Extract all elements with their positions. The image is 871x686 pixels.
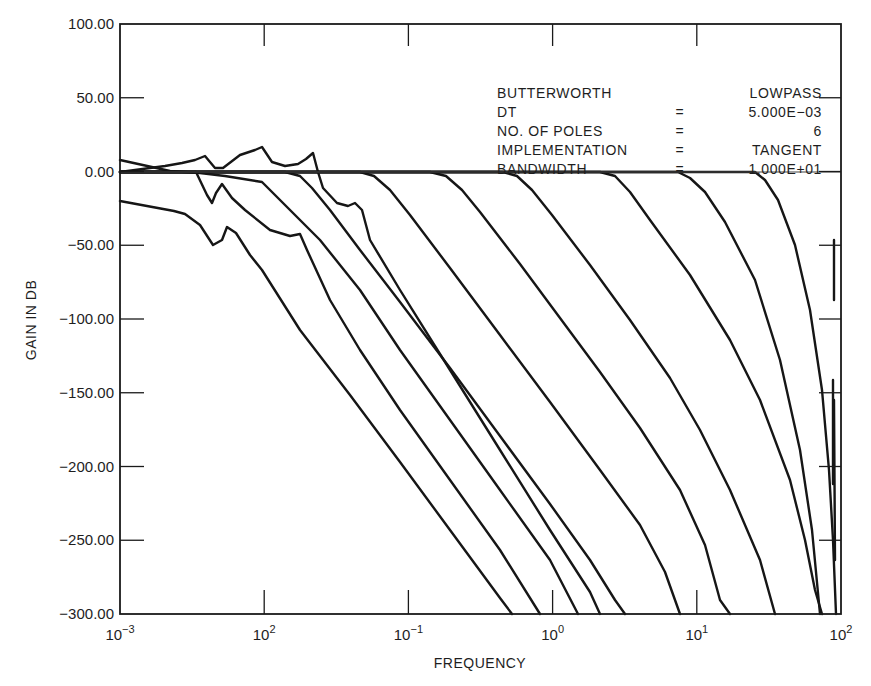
y-tick-label: 100.00 <box>68 15 114 32</box>
y-tick-label: −300.00 <box>59 605 114 622</box>
response-curve-4 <box>120 147 600 614</box>
annotation-eq-poles: = <box>676 123 685 139</box>
x-tick-label: 10−3 <box>105 623 134 643</box>
annotation-label-implementation: IMPLEMENTATION <box>497 142 628 158</box>
response-curve-6 <box>120 172 680 614</box>
response-curve-9 <box>120 172 822 614</box>
gain-frequency-chart: 100.0050.000.00−50.00−100.00−150.00−200.… <box>0 0 871 686</box>
annotation-label-dt: DT <box>497 104 517 120</box>
annotation-value-dt: 5.000E−03 <box>748 104 822 120</box>
y-axis-title: GAIN IN DB <box>23 280 39 360</box>
annotation-box: BUTTERWORTH LOWPASS DT = 5.000E−03 NO. O… <box>497 85 822 177</box>
response-curve-11 <box>120 172 836 614</box>
response-curves <box>120 147 836 614</box>
annotation-label-bandwidth: BANDWIDTH <box>497 161 587 177</box>
y-tick-label: −250.00 <box>59 531 114 548</box>
response-curve-8 <box>120 172 775 614</box>
annotation-label-poles: NO. OF POLES <box>497 123 603 139</box>
y-tick-label: −100.00 <box>59 310 114 327</box>
x-axis-ticks: 10−310210−1100101102 <box>105 24 852 643</box>
annotation-eq-dt: = <box>676 104 685 120</box>
x-tick-label: 102 <box>830 623 853 643</box>
y-tick-label: −200.00 <box>59 458 114 475</box>
response-curve-1 <box>120 201 512 614</box>
right-edge-spikes <box>833 240 835 560</box>
response-curve-7 <box>120 172 730 614</box>
response-curve-3 <box>120 160 578 614</box>
annotation-value-poles: 6 <box>814 123 822 139</box>
response-curve-10 <box>120 172 820 614</box>
x-tick-label: 102 <box>253 623 276 643</box>
response-curve-2 <box>120 172 540 614</box>
annotation-value-bandwidth: 1.000E+01 <box>748 161 822 177</box>
response-curve-5 <box>120 172 625 614</box>
x-tick-label: 10−1 <box>394 623 423 643</box>
annotation-label-filter-type: BUTTERWORTH <box>497 85 612 101</box>
y-tick-label: 0.00 <box>85 163 114 180</box>
annotation-eq-bandwidth: = <box>676 161 685 177</box>
y-tick-label: 50.00 <box>76 89 114 106</box>
plot-frame <box>120 24 841 614</box>
y-tick-label: −150.00 <box>59 384 114 401</box>
annotation-value-filter-type: LOWPASS <box>750 85 822 101</box>
x-axis-title: FREQUENCY <box>434 655 527 671</box>
x-tick-label: 100 <box>541 623 564 643</box>
y-tick-label: −50.00 <box>68 236 114 253</box>
x-tick-label: 101 <box>685 623 708 643</box>
annotation-value-implementation: TANGENT <box>752 142 822 158</box>
annotation-eq-implementation: = <box>676 142 685 158</box>
